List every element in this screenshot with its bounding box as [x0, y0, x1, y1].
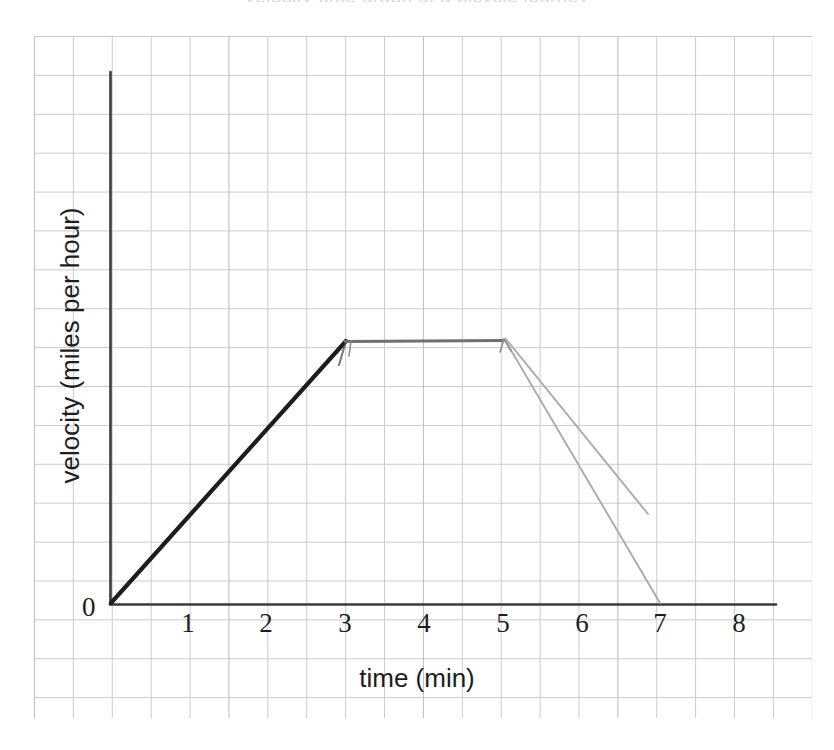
x-axis-title: time (min): [0, 663, 834, 694]
x-tick-label-2: 2: [246, 608, 286, 639]
y-axis-title: velocity (miles per hour): [55, 151, 86, 541]
x-tick-label-1: 1: [168, 608, 208, 639]
deceleration-segment-to-rest: [505, 340, 660, 603]
x-tick-label-0: 0: [82, 592, 96, 623]
x-tick-label-5: 5: [483, 608, 523, 639]
graph-page: velocity-time graph of a bicycle journey…: [0, 0, 834, 750]
plateau-start-tick: [349, 341, 351, 356]
deceleration-segment-incomplete: [506, 339, 648, 514]
constant-velocity-segment: [345, 341, 504, 342]
x-tick-label-8: 8: [719, 608, 759, 639]
x-tick-label-7: 7: [640, 608, 680, 639]
x-tick-label-3: 3: [325, 608, 365, 639]
x-tick-label-6: 6: [562, 608, 602, 639]
acceleration-segment: [111, 341, 346, 603]
x-tick-label-4: 4: [404, 608, 444, 639]
